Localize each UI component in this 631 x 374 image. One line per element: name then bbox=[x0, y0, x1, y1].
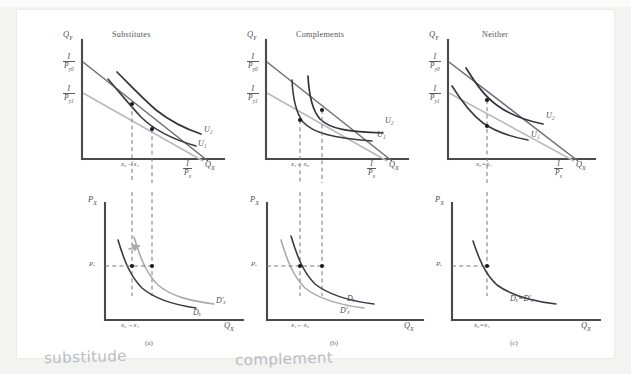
panel-c-budget-line-initial bbox=[449, 62, 578, 161]
panel-b-demand-label-new: D′ₓ bbox=[340, 307, 350, 315]
panel-c-y-int0-sub: y0 bbox=[435, 65, 440, 71]
panel-a-top-quantity-tick: x₀→x₁ bbox=[121, 161, 139, 168]
panel-b-top-x-axis-label: QX bbox=[389, 161, 399, 171]
panel-b-bottom-y-axis-subscript: X bbox=[255, 200, 259, 206]
panel-a-curve-label-u1: U₁ bbox=[198, 140, 207, 148]
panel-a-top-x-axis-subscript: X bbox=[211, 165, 215, 171]
panel-c-budget-line-new bbox=[449, 93, 574, 161]
panel-b-top-y-axis-subscript: Y bbox=[253, 35, 256, 41]
panel-c-title: Neither bbox=[482, 31, 508, 39]
panel-c-demand-point bbox=[485, 264, 489, 268]
panel-a-curve-label-u2: U₂ bbox=[204, 126, 213, 134]
panel-c-bottom-quantity-tick: x₀=x₁ bbox=[474, 322, 490, 329]
panel-a-x-intercept: I Px bbox=[183, 160, 192, 179]
panel-c-x-int-sub: x bbox=[560, 172, 562, 178]
panel-c-bottom-y-axis-subscript: X bbox=[440, 200, 444, 206]
panel-c-subfig-label: (c) bbox=[510, 340, 518, 347]
panel-b-top-y-axis-label: QY bbox=[247, 31, 256, 41]
panel-a-equilibrium-point-1 bbox=[150, 127, 154, 131]
panel-b-bottom-quantity-tick: x₁←x₀ bbox=[291, 322, 309, 329]
panel-b-top-x-axis-subscript: X bbox=[395, 165, 399, 171]
panel-a-bottom-y-axis-label: PX bbox=[88, 196, 97, 206]
panel-b-title: Complements bbox=[296, 31, 344, 39]
panel-c-top-y-axis-label: QY bbox=[429, 31, 438, 41]
panel-c-top-y-axis-subscript: Y bbox=[435, 35, 438, 41]
panel-c-bottom-y-axis-label: PX bbox=[435, 196, 444, 206]
panel-c-price-tick: Pₑ bbox=[436, 261, 442, 268]
panel-a-top-graph bbox=[82, 40, 224, 296]
panel-a-subfig-label: (a) bbox=[145, 340, 153, 347]
panel-a-equilibrium-point-0 bbox=[130, 102, 134, 106]
handwritten-note-complement: complement bbox=[235, 349, 334, 370]
handwritten-note-substitute: substitude bbox=[44, 347, 127, 367]
panel-a-bottom-x-axis-label: QX bbox=[224, 322, 234, 332]
panel-c-y-intercept-initial: I Py0 bbox=[429, 53, 441, 72]
panel-c-indifference-curve-u2 bbox=[466, 68, 543, 124]
panel-a-y-intercept-new: I Py1 bbox=[63, 85, 75, 104]
panel-a-indifference-curve-u1 bbox=[108, 79, 196, 146]
panel-b-budget-line-initial bbox=[267, 62, 392, 161]
panel-b-top-quantity-tick: x₁←x₀ bbox=[291, 161, 309, 168]
panel-c-curve-label-u2: U₂ bbox=[546, 112, 555, 120]
panel-c-top-graph bbox=[448, 40, 595, 296]
panel-c-demand-label: Dₓ=D′ₓ bbox=[510, 295, 533, 303]
panel-b-demand-point-0 bbox=[320, 264, 324, 268]
panel-c-y-int1-num: I bbox=[429, 85, 441, 93]
panel-c-bottom-x-axis-label: QX bbox=[581, 322, 591, 332]
panel-a-bottom-x-axis-subscript: X bbox=[230, 326, 234, 332]
panel-b-y-int0-num: I bbox=[247, 53, 259, 61]
panel-a-demand-label-new: D′ₓ bbox=[216, 297, 226, 305]
panel-b-subfig-label: (b) bbox=[330, 340, 338, 347]
panel-b-y-int1-sub: y1 bbox=[253, 97, 258, 103]
panel-b-y-intercept-new: I Py1 bbox=[247, 85, 259, 104]
panel-a-budget-line-initial bbox=[83, 62, 208, 161]
panel-a-bottom-y-axis-subscript: X bbox=[93, 200, 97, 206]
panel-b-bottom-graph bbox=[267, 203, 423, 320]
panel-c-top-quantity-tick: x₀=x₁ bbox=[476, 161, 492, 168]
panel-b-bottom-x-axis-subscript: X bbox=[410, 326, 414, 332]
panel-b-demand-point-1 bbox=[298, 264, 302, 268]
panel-c-equilibrium-point-1 bbox=[485, 124, 489, 128]
panel-b-equilibrium-point-0 bbox=[320, 108, 324, 112]
panel-b-y-intercept-initial: I Py0 bbox=[247, 53, 259, 72]
panel-c-y-intercept-new: I Py1 bbox=[429, 85, 441, 104]
panel-c-x-int-num: I bbox=[554, 160, 563, 168]
panel-b-x-intercept: I Px bbox=[367, 160, 376, 179]
panel-a-demand-curve-new bbox=[134, 237, 214, 304]
panel-a-x-int-num: I bbox=[183, 160, 192, 168]
panel-b-price-tick: Pₑ bbox=[251, 261, 257, 268]
panel-a-price-tick: Pₑ bbox=[89, 261, 95, 268]
panel-b-budget-line-new bbox=[267, 93, 387, 161]
panel-b-x-int-sub: x bbox=[373, 172, 375, 178]
panel-c-top-x-axis-subscript: X bbox=[582, 165, 586, 171]
panel-a-top-y-axis-label: QY bbox=[63, 31, 72, 41]
panel-a-top-y-axis-subscript: Y bbox=[69, 35, 72, 41]
panel-a-y-int1-sub: y1 bbox=[69, 97, 74, 103]
panel-c-y-int0-num: I bbox=[429, 53, 441, 61]
panel-b-y-int1-num: I bbox=[247, 85, 259, 93]
panel-c-curve-label-u1: U₁ bbox=[531, 131, 540, 139]
panel-b-curve-label-u2: U₂ bbox=[385, 117, 394, 125]
figure-drawing bbox=[0, 0, 631, 374]
panel-a-y-int0-sub: y0 bbox=[69, 65, 74, 71]
panel-c-x-intercept: I Px bbox=[554, 160, 563, 179]
panel-a-demand-point-1 bbox=[150, 264, 154, 268]
panel-b-bottom-y-axis-label: PX bbox=[250, 196, 259, 206]
panel-a-demand-point-0 bbox=[130, 264, 134, 268]
panel-a-y-intercept-initial: I Py0 bbox=[63, 53, 75, 72]
panel-b-demand-curve-initial bbox=[291, 236, 374, 304]
panel-b-equilibrium-point-1 bbox=[298, 118, 302, 122]
panel-b-bottom-x-axis-label: QX bbox=[404, 322, 414, 332]
panel-c-y-int1-sub: y1 bbox=[435, 97, 440, 103]
panel-b-x-int-num: I bbox=[367, 160, 376, 168]
panel-a-indifference-curve-u2 bbox=[117, 72, 201, 134]
figure-root: Substitutes QY QX I Py0 I Py1 I Px U₂ U₁… bbox=[0, 0, 631, 374]
panel-a-title: Substitutes bbox=[112, 31, 151, 39]
panel-a-top-x-axis-label: QX bbox=[205, 161, 215, 171]
panel-b-demand-label-initial: Dₓ bbox=[347, 295, 355, 303]
panel-a-y-int0-num: I bbox=[63, 53, 75, 61]
panel-b-curve-label-u1: U₁ bbox=[377, 131, 386, 139]
panel-c-top-x-axis-label: QX bbox=[576, 161, 586, 171]
panel-b-y-int0-sub: y0 bbox=[253, 65, 258, 71]
panel-a-bottom-quantity-tick: x₀→x₁ bbox=[121, 322, 139, 329]
